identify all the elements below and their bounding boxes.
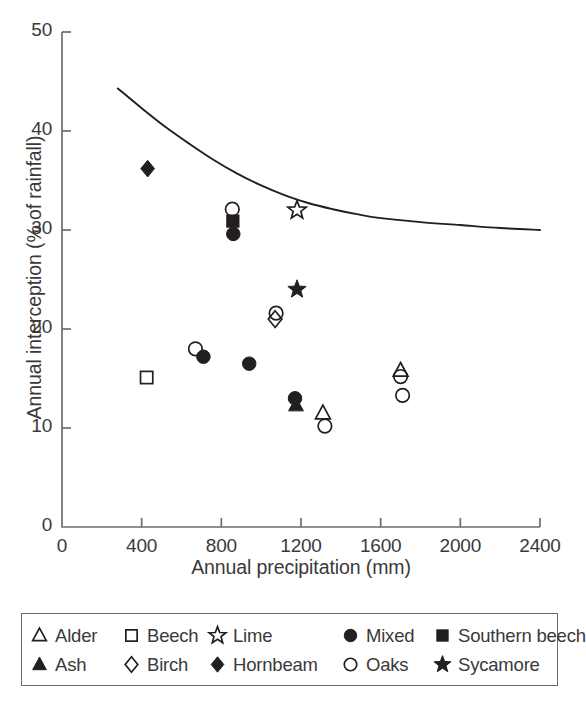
- legend-item-sycamore[interactable]: Sycamore: [434, 650, 552, 679]
- trend-curve: [118, 88, 540, 230]
- plot-area: 01020304050 04008001200160020002400 Annu…: [0, 0, 583, 600]
- chart-canvas: [0, 0, 583, 600]
- open-triangle-icon: [31, 627, 48, 644]
- x-tick-label: 0: [27, 535, 97, 557]
- x-tick-label: 800: [186, 535, 256, 557]
- data-point-southern-beech: [227, 215, 239, 227]
- x-tick-label: 2000: [425, 535, 495, 557]
- data-point-oaks: [318, 419, 332, 433]
- axis-lines: [62, 32, 540, 527]
- data-point-oaks: [396, 389, 410, 403]
- legend-label: Beech: [147, 625, 198, 647]
- filled-square-icon: [434, 627, 451, 644]
- legend-label: Lime: [233, 625, 272, 647]
- legend-item-hornbeam[interactable]: Hornbeam: [209, 650, 342, 679]
- filled-triangle-icon: [31, 656, 48, 673]
- data-point-oaks: [226, 202, 240, 216]
- data-points: [141, 160, 410, 432]
- legend-label: Sycamore: [458, 654, 540, 676]
- legend-item-mixed[interactable]: Mixed: [342, 621, 434, 650]
- y-axis-title: Annual interception (% of rainfall): [23, 58, 46, 498]
- x-axis-title: Annual precipitation (mm): [62, 556, 540, 579]
- legend-item-southern-beech[interactable]: Southern beech: [434, 621, 552, 650]
- legend-item-beech[interactable]: Beech: [123, 621, 209, 650]
- data-point-sycamore: [288, 280, 306, 297]
- data-point-alder: [315, 405, 330, 419]
- legend-label: Birch: [147, 654, 188, 676]
- legend-label: Oaks: [366, 654, 408, 676]
- filled-circle-icon: [342, 627, 359, 644]
- legend-box: AlderBeechLimeMixedSouthern beechAshBirc…: [21, 613, 558, 686]
- data-point-mixed: [242, 357, 256, 371]
- legend-grid: AlderBeechLimeMixedSouthern beechAshBirc…: [31, 621, 550, 679]
- open-star-icon: [209, 627, 226, 644]
- open-circle-icon: [342, 656, 359, 673]
- x-tick-label: 2400: [505, 535, 575, 557]
- legend-item-lime[interactable]: Lime: [209, 621, 342, 650]
- legend-item-alder[interactable]: Alder: [31, 621, 123, 650]
- data-point-mixed: [227, 227, 241, 241]
- legend-label: Ash: [55, 654, 86, 676]
- legend-item-oaks[interactable]: Oaks: [342, 650, 434, 679]
- legend-label: Hornbeam: [233, 654, 318, 676]
- x-tick-label: 1600: [346, 535, 416, 557]
- data-point-mixed: [288, 392, 302, 406]
- legend-item-ash[interactable]: Ash: [31, 650, 123, 679]
- legend-label: Southern beech: [458, 625, 586, 647]
- x-tick-label: 400: [107, 535, 177, 557]
- legend-item-birch[interactable]: Birch: [123, 650, 209, 679]
- legend-label: Alder: [55, 625, 97, 647]
- data-point-lime: [288, 201, 306, 218]
- y-tick-label: 0: [2, 514, 52, 536]
- x-tick-label: 1200: [266, 535, 336, 557]
- data-point-hornbeam: [141, 160, 155, 177]
- filled-star-icon: [434, 656, 451, 673]
- data-point-oaks: [189, 342, 203, 356]
- y-tick-label: 50: [2, 19, 52, 41]
- data-point-beech: [141, 371, 153, 383]
- open-diamond-icon: [123, 656, 140, 673]
- data-point-mixed: [197, 350, 211, 364]
- filled-diamond-icon: [209, 656, 226, 673]
- open-square-icon: [123, 627, 140, 644]
- legend-label: Mixed: [366, 625, 414, 647]
